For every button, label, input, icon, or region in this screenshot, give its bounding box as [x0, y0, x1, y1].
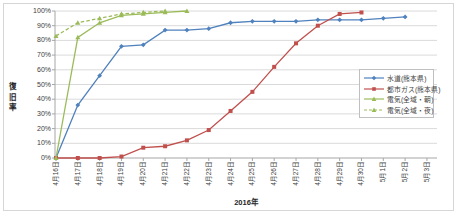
series-line-diamond	[56, 17, 405, 158]
x-tick-label: 4月16日	[51, 161, 61, 195]
square-marker	[294, 41, 298, 45]
legend-label: 水道(熊本県)	[387, 73, 427, 83]
y-tick-label: 20%	[21, 125, 51, 133]
legend-swatch-diamond-line	[364, 74, 384, 82]
y-tick-label: 10%	[21, 139, 51, 147]
diamond-marker	[206, 26, 211, 31]
square-marker	[141, 146, 145, 150]
x-tick-label: 4月20日	[138, 161, 148, 195]
x-tick-label: 4月25日	[247, 161, 257, 195]
legend-swatch-square-line	[364, 85, 384, 93]
diamond-marker	[228, 20, 233, 25]
legend-item: 電気(全域・夜)	[364, 105, 429, 116]
diamond-marker	[359, 17, 364, 22]
legend-label: 電気(全域・朝)	[387, 94, 434, 104]
x-tick-label: 5月1日	[378, 161, 388, 195]
legend: 水道(熊本県)都市ガス(熊本県)電気(全域・朝)電気(全域・夜)	[359, 69, 434, 118]
y-tick-label: 40%	[21, 95, 51, 103]
diamond-marker	[250, 19, 255, 24]
x-tick-label: 4月26日	[269, 161, 279, 195]
diamond-marker	[403, 14, 408, 19]
square-marker	[229, 109, 233, 113]
triangle-marker	[97, 16, 102, 21]
y-tick-label: 50%	[21, 81, 51, 89]
y-axis-title: 復旧率	[7, 82, 17, 114]
y-tick-label: 0%	[21, 154, 51, 162]
legend-item: 水道(熊本県)	[364, 73, 429, 84]
x-tick-label: 4月24日	[226, 161, 236, 195]
square-marker	[119, 155, 123, 159]
diamond-marker	[315, 17, 320, 22]
square-marker	[272, 65, 276, 69]
x-tick-label: 4月28日	[313, 161, 323, 195]
x-tick-label: 4月29日	[335, 161, 345, 195]
x-tick-label: 4月30日	[356, 161, 366, 195]
square-marker	[338, 12, 342, 16]
legend-swatch-triangle-line	[364, 95, 384, 103]
y-tick-label: 30%	[21, 110, 51, 118]
x-tick-label: 5月3日	[422, 161, 432, 195]
square-marker	[98, 156, 102, 160]
square-marker	[76, 156, 80, 160]
legend-label: 都市ガス(熊本県)	[387, 84, 441, 94]
square-marker	[163, 144, 167, 148]
x-tick-label: 4月18日	[95, 161, 105, 195]
legend-item: 都市ガス(熊本県)	[364, 84, 429, 95]
legend-item: 電気(全域・朝)	[364, 94, 429, 105]
x-tick-label: 4月27日	[291, 161, 301, 195]
legend-label: 電気(全域・夜)	[387, 105, 434, 115]
x-tick-label: 4月22日	[182, 161, 192, 195]
x-tick-label: 4月19日	[116, 161, 126, 195]
x-tick-label: 4月17日	[73, 161, 83, 195]
square-marker	[185, 138, 189, 142]
diamond-marker	[272, 19, 277, 24]
y-tick-label: 90%	[21, 22, 51, 30]
x-tick-label: 4月21日	[160, 161, 170, 195]
series-line-square	[56, 12, 361, 158]
series-line-triangle	[56, 11, 165, 36]
y-tick-label: 70%	[21, 51, 51, 59]
square-marker	[316, 24, 320, 28]
triangle-marker	[75, 20, 80, 25]
x-tick-label: 5月2日	[400, 161, 410, 195]
y-tick-label: 100%	[21, 7, 51, 15]
y-tick-label: 80%	[21, 36, 51, 44]
diamond-marker	[381, 16, 386, 21]
line-chart: 0%10%20%30%40%50%60%70%80%90%100% 4月16日4…	[0, 0, 457, 222]
square-marker	[207, 128, 211, 132]
diamond-marker	[337, 17, 342, 22]
diamond-marker	[185, 28, 190, 33]
diamond-marker	[294, 19, 299, 24]
x-tick-label: 4月23日	[204, 161, 214, 195]
legend-swatch-triangle-line	[364, 106, 384, 114]
x-axis-title: 2016年	[196, 196, 296, 207]
square-marker	[359, 10, 363, 14]
y-tick-label: 60%	[21, 66, 51, 74]
square-marker	[250, 90, 254, 94]
